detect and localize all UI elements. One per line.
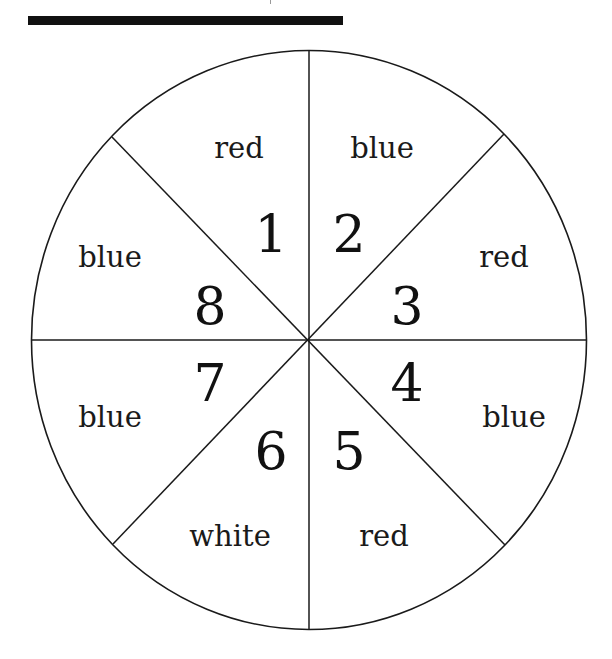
spinner-wheel: red blue red blue red white blue blue 1 … — [0, 0, 612, 659]
segment-6-number: 6 — [254, 421, 287, 481]
segment-8-number: 8 — [193, 276, 226, 336]
segment-2-color: blue — [350, 131, 414, 165]
segment-4-color: blue — [482, 400, 546, 434]
segment-7-color: blue — [78, 400, 142, 434]
segment-5-color: red — [359, 519, 409, 553]
segment-1-color: red — [214, 131, 264, 165]
segment-1-number: 1 — [254, 204, 287, 264]
segment-3-number: 3 — [390, 276, 423, 336]
segment-6-color: white — [189, 519, 271, 553]
segment-7-number: 7 — [193, 353, 226, 413]
segment-8-color: blue — [78, 240, 142, 274]
segment-2-number: 2 — [332, 204, 365, 264]
segment-4-number: 4 — [390, 353, 423, 413]
segment-5-number: 5 — [332, 421, 365, 481]
segment-3-color: red — [479, 240, 529, 274]
